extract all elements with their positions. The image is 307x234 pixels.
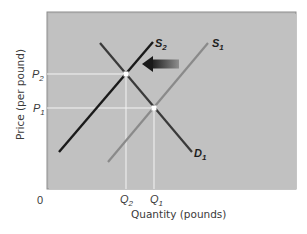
y-axis-title: Price (per pound)	[14, 49, 26, 140]
supply-demand-chart: S2 S1 D1 P2 P1 Q2 Q1 0 Quantity (pounds)…	[0, 0, 307, 234]
x-tick-q1: Q1	[150, 193, 163, 208]
x-axis-title: Quantity (pounds)	[131, 208, 226, 220]
y-tick-p1: P1	[33, 102, 45, 117]
equilibrium-point-e2	[124, 72, 129, 77]
y-tick-p2: P2	[32, 68, 44, 83]
origin-label: 0	[37, 194, 43, 206]
plot-inner	[49, 14, 296, 189]
x-tick-q2: Q2	[120, 193, 134, 208]
equilibrium-point-e1	[152, 106, 157, 111]
